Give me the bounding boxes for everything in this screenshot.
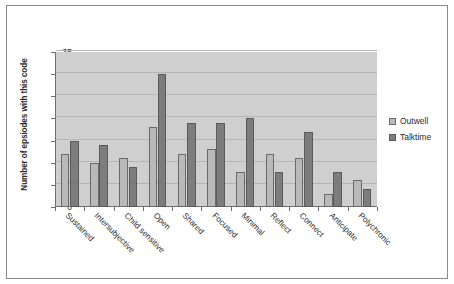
bar-group [143, 52, 172, 207]
legend-label-outwell: Outwell [400, 116, 428, 126]
bar [216, 123, 225, 207]
x-tick-label: Connect [298, 211, 326, 239]
x-tick-label: Minimal [239, 211, 265, 237]
bar-group [348, 52, 377, 207]
bar [99, 145, 108, 207]
bar-group [231, 52, 260, 207]
chart-legend: Outwell Talktime [389, 113, 447, 145]
bar [61, 154, 70, 207]
bar [246, 118, 255, 207]
bars-layer [55, 52, 377, 207]
bar-group [84, 52, 113, 207]
bar [158, 74, 167, 207]
bar [353, 180, 362, 207]
legend-swatch-icon-talktime [389, 134, 396, 141]
bar [333, 172, 342, 207]
bar [266, 154, 275, 207]
gridline-35 [56, 50, 377, 51]
legend-item-talktime: Talktime [389, 129, 447, 145]
x-tick-label: Open [152, 211, 173, 232]
bar [207, 149, 216, 207]
bar-group [318, 52, 347, 207]
x-tick-label: Shared [181, 211, 206, 236]
bar [149, 127, 158, 207]
plot-wrapper [55, 52, 377, 207]
y-axis-title: Number of epsiodes with this code [20, 35, 29, 215]
bar [363, 189, 372, 207]
x-axis-tick-labels: SustainedIntersubjectiveChild sensitiveO… [55, 211, 377, 277]
bar [119, 158, 128, 207]
bar [90, 163, 99, 207]
bar-group [201, 52, 230, 207]
bar-group [114, 52, 143, 207]
x-tick-label: Sustained [64, 211, 96, 243]
legend-label-talktime: Talktime [400, 132, 431, 142]
bar-group [55, 52, 84, 207]
x-tick-label: Reflect [269, 211, 293, 235]
bar [129, 167, 138, 207]
bar-group [260, 52, 289, 207]
bar [275, 172, 284, 207]
x-tick-label: Anticipate [327, 211, 359, 243]
legend-item-outwell: Outwell [389, 113, 447, 129]
bar [295, 158, 304, 207]
bar [236, 172, 245, 207]
legend-swatch-icon-outwell [389, 118, 396, 125]
bar [304, 132, 313, 207]
x-tick-mark [377, 207, 378, 211]
bar-group [289, 52, 318, 207]
bar [187, 123, 196, 207]
bar-chart-figure: Number of epsiodes with this code 051015… [0, 0, 454, 284]
bar [70, 141, 79, 207]
bar [178, 154, 187, 207]
bar-group [172, 52, 201, 207]
bar [324, 194, 333, 207]
x-tick-label: Focused [210, 211, 239, 240]
